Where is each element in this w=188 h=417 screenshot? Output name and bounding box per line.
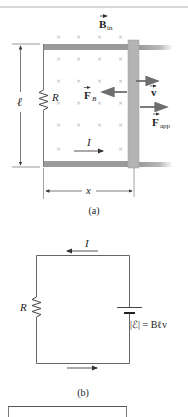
figure-a: B in × × × × × × × × × × × × × × × × × ×… (12, 16, 173, 217)
resistor-label-b: R (19, 301, 27, 313)
caption-a: (a) (88, 205, 99, 217)
x-mark-icon: × (97, 33, 102, 40)
battery-icon (117, 308, 142, 314)
x-mark-icon: × (118, 121, 123, 128)
x-mark-icon: × (118, 145, 123, 152)
resistor-zigzag-icon (32, 297, 41, 317)
applied-force-vector: F app (140, 107, 171, 130)
x-mark-icon: × (56, 121, 61, 128)
top-rail-extension (139, 45, 173, 50)
bottom-rail (43, 161, 129, 167)
x-mark-icon: × (118, 33, 123, 40)
bottom-rail-extension (139, 162, 173, 167)
x-mark-icon: × (56, 77, 61, 84)
x-mark-icon: × (76, 55, 81, 62)
length-dimension: ℓ (12, 44, 40, 167)
sliding-bar (128, 40, 139, 168)
x-mark-icon: × (76, 77, 81, 84)
x-mark-icon: × (118, 99, 123, 106)
force-app-symbol: F (152, 116, 159, 128)
current-label-top: I (84, 237, 90, 249)
resistor-zigzag-icon (39, 90, 48, 110)
x-mark-icon: × (76, 99, 81, 106)
top-rail (43, 44, 129, 50)
x-mark-icon: × (118, 55, 123, 62)
current-indicator-a: I (74, 136, 103, 151)
force-b-symbol: F (84, 89, 91, 101)
distance-dimension: x (44, 168, 135, 199)
velocity-vector: v (136, 81, 158, 98)
x-mark-icon: × (118, 77, 123, 84)
x-mark-icon: × (97, 77, 102, 84)
x-mark-icon: × (97, 121, 102, 128)
x-mark-icon: × (76, 33, 81, 40)
x-mark-icon: × (97, 55, 102, 62)
force-b-subscript: B (92, 95, 97, 103)
caption-b: (b) (77, 387, 89, 399)
x-mark-icon: × (56, 55, 61, 62)
x-mark-icon: × (56, 33, 61, 40)
next-panel-border (8, 406, 127, 417)
x-mark-icon: × (97, 99, 102, 106)
current-label: I (86, 136, 92, 148)
x-mark-icon: × (56, 145, 61, 152)
resistor-label: R (51, 91, 59, 103)
velocity-symbol: v (151, 86, 157, 98)
emf-label: |ℰ| = Bℓv (130, 319, 167, 330)
magnetic-field-label: B in (99, 16, 113, 32)
force-app-subscript: app (160, 122, 171, 130)
x-mark-icon: × (76, 121, 81, 128)
distance-label: x (85, 184, 91, 196)
field-subscript: in (107, 24, 113, 32)
field-symbol: B (99, 18, 107, 30)
figure-b: I R |ℰ| = Bℓv (b) (19, 237, 167, 399)
length-label: ℓ (17, 95, 22, 109)
circuit-loop (32, 256, 130, 364)
